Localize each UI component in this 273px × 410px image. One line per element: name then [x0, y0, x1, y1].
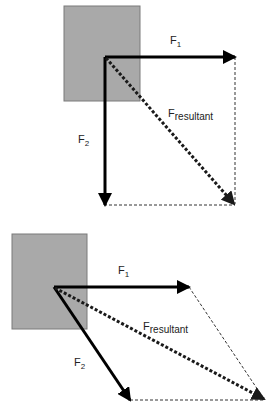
- f1-label: F1: [118, 264, 130, 279]
- object-box: [64, 6, 140, 101]
- diagram-oblique: F1 F2 Fresultant: [12, 234, 264, 400]
- object-box: [12, 234, 87, 329]
- f2-label: F2: [78, 133, 90, 148]
- f2-vector-arrow: [54, 287, 130, 400]
- diagram-perpendicular: F1 F2 Fresultant: [64, 6, 235, 205]
- f2-label: F2: [74, 356, 86, 371]
- construction-line-diagonal: [189, 287, 264, 399]
- resultant-label: Fresultant: [143, 320, 188, 335]
- force-diagrams: F1 F2 Fresultant F1 F2 Fresultant: [0, 0, 273, 410]
- resultant-vector-arrow: [55, 288, 264, 399]
- resultant-label: Fresultant: [168, 107, 213, 122]
- f1-label: F1: [170, 34, 182, 49]
